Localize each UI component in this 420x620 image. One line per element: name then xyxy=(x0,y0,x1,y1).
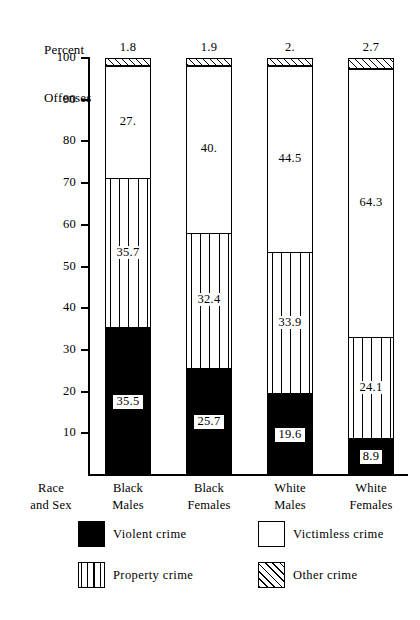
legend-swatch-violent-icon xyxy=(78,521,105,547)
bar-segment-other-crime[interactable] xyxy=(349,58,393,69)
y-axis-tick-label: 50 xyxy=(42,260,76,273)
x-axis-caption: Race and Sex xyxy=(14,480,88,514)
segment-value-text: 25.7 xyxy=(193,414,224,430)
category-label-line: Males xyxy=(244,497,336,514)
category-label-black-males: BlackMales xyxy=(82,480,174,514)
bar-top-value-label: 2.7 xyxy=(347,41,396,54)
category-label-line: Males xyxy=(82,497,174,514)
segment-value-text: 27. xyxy=(120,114,137,128)
segment-value-label: 44.5 xyxy=(268,152,312,165)
bar-segment-violent-crime[interactable]: 19.6 xyxy=(268,393,312,475)
segment-value-label: 64.3 xyxy=(349,196,393,209)
bar-segment-victimless-crime[interactable]: 40. xyxy=(187,66,231,233)
legend-swatch-property-icon xyxy=(78,562,105,588)
category-label-black-females: BlackFemales xyxy=(163,480,255,514)
bar-segment-victimless-crime[interactable]: 44.5 xyxy=(268,66,312,252)
segment-value-text: 40. xyxy=(201,141,218,155)
y-axis-tick xyxy=(81,182,90,184)
category-label-line: White xyxy=(325,480,417,497)
bar-segment-violent-crime[interactable]: 8.9 xyxy=(349,438,393,475)
y-axis-tick-label: 90 xyxy=(42,93,76,106)
y-axis-tick xyxy=(81,391,90,393)
y-axis-tick xyxy=(81,224,90,226)
segment-value-text: 32.4 xyxy=(195,293,222,306)
y-axis-tick xyxy=(81,99,90,101)
x-axis-caption-line-1: Race xyxy=(14,480,88,497)
category-label-line: Black xyxy=(163,480,255,497)
category-label-white-males: WhiteMales xyxy=(244,480,336,514)
category-label-line: Black xyxy=(82,480,174,497)
category-label-line: Females xyxy=(325,497,417,514)
y-axis-tick xyxy=(81,266,90,268)
chart-title: Percent Offenses xyxy=(44,10,92,138)
bar-top-value-label: 2. xyxy=(266,41,315,54)
bar-segment-other-crime[interactable] xyxy=(268,58,312,66)
segment-value-text: 24.1 xyxy=(357,381,384,394)
bar-top-value-label: 1.9 xyxy=(185,41,234,54)
stacked-bar[interactable]: 44.533.919.6 xyxy=(267,58,313,475)
segment-value-text: 8.9 xyxy=(359,449,384,465)
segment-value-text: 35.5 xyxy=(112,394,143,410)
segment-value-label: 40. xyxy=(187,142,231,155)
y-axis-tick-label: 80 xyxy=(42,134,76,147)
bar-segment-victimless-crime[interactable]: 27. xyxy=(106,66,150,179)
segment-value-label: 35.7 xyxy=(106,246,150,259)
legend-item-violent[interactable]: Violent crime xyxy=(78,521,187,547)
category-label-line: Females xyxy=(163,497,255,514)
legend-swatch-victimless-icon xyxy=(258,521,285,547)
segment-value-text: 33.9 xyxy=(276,316,303,329)
segment-value-label: 19.6 xyxy=(268,427,312,443)
y-axis-tick xyxy=(81,432,90,434)
stacked-bar[interactable]: 64.324.18.9 xyxy=(348,58,394,475)
bar-segment-other-crime[interactable] xyxy=(187,58,231,66)
legend-label: Violent crime xyxy=(113,527,187,542)
bar-segment-property-crime[interactable]: 24.1 xyxy=(349,337,393,437)
y-axis-tick-label: 60 xyxy=(42,218,76,231)
segment-value-text: 64.3 xyxy=(359,195,382,209)
stacked-bar[interactable]: 27.35.735.5 xyxy=(105,58,151,475)
segment-value-text: 35.7 xyxy=(114,246,141,259)
y-axis-tick-label: 10 xyxy=(42,426,76,439)
legend-label: Property crime xyxy=(113,568,193,583)
y-axis-tick-label: 70 xyxy=(42,176,76,189)
segment-value-text: 44.5 xyxy=(278,151,301,165)
stacked-bar[interactable]: 40.32.425.7 xyxy=(186,58,232,475)
y-axis-tick xyxy=(81,57,90,59)
chart-canvas: Percent Offenses 102030405060708090100 2… xyxy=(0,0,420,620)
y-axis-tick xyxy=(81,349,90,351)
y-axis-tick-label: 100 xyxy=(42,51,76,64)
category-label-line: White xyxy=(244,480,336,497)
bar-segment-violent-crime[interactable]: 35.5 xyxy=(106,327,150,475)
x-axis-caption-line-2: and Sex xyxy=(14,497,88,514)
y-axis-tick-label: 20 xyxy=(42,385,76,398)
y-axis-tick-label: 40 xyxy=(42,301,76,314)
bar-segment-property-crime[interactable]: 33.9 xyxy=(268,252,312,393)
bar-segment-property-crime[interactable]: 32.4 xyxy=(187,233,231,368)
bar-top-value-label: 1.8 xyxy=(104,41,153,54)
segment-value-label: 33.9 xyxy=(268,316,312,329)
legend-swatch-other-icon xyxy=(258,562,285,588)
y-axis-tick xyxy=(81,140,90,142)
segment-value-label: 32.4 xyxy=(187,293,231,306)
segment-value-label: 27. xyxy=(106,115,150,128)
bar-segment-property-crime[interactable]: 35.7 xyxy=(106,178,150,327)
legend-item-property[interactable]: Property crime xyxy=(78,562,193,588)
bar-segment-violent-crime[interactable]: 25.7 xyxy=(187,368,231,475)
y-axis-tick xyxy=(81,307,90,309)
legend-item-victimless[interactable]: Victimless crime xyxy=(258,521,384,547)
legend-item-other[interactable]: Other crime xyxy=(258,562,357,588)
legend-label: Other crime xyxy=(293,568,357,583)
y-axis-tick-label: 30 xyxy=(42,343,76,356)
bar-segment-victimless-crime[interactable]: 64.3 xyxy=(349,69,393,337)
category-label-white-females: WhiteFemales xyxy=(325,480,417,514)
segment-value-text: 19.6 xyxy=(274,427,305,443)
segment-value-label: 25.7 xyxy=(187,414,231,430)
segment-value-label: 24.1 xyxy=(349,381,393,394)
legend-label: Victimless crime xyxy=(293,527,384,542)
segment-value-label: 8.9 xyxy=(349,449,393,465)
segment-value-label: 35.5 xyxy=(106,394,150,410)
bar-segment-other-crime[interactable] xyxy=(106,58,150,66)
